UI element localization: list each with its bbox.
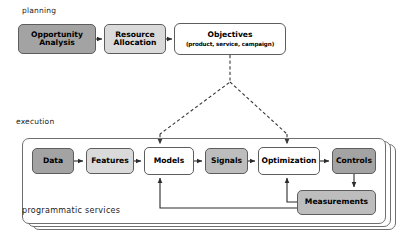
node-label: Signals	[211, 157, 242, 165]
node-label: Measurements	[305, 198, 368, 206]
node-features[interactable]: Features	[86, 148, 134, 174]
node-label: Data	[43, 157, 63, 165]
node-label: Optimization	[261, 157, 316, 165]
node-signals[interactable]: Signals	[205, 148, 248, 174]
node-objectives[interactable]: Objectives (product, service, campaign)	[174, 23, 286, 55]
node-controls[interactable]: Controls	[332, 148, 376, 174]
connector-measurements-to-models	[160, 178, 297, 208]
connector-objectives-to-models-dashed	[160, 55, 230, 144]
node-label: Controls	[336, 157, 372, 165]
node-data[interactable]: Data	[32, 148, 74, 174]
connector-measurements-to-optimization	[287, 178, 297, 202]
diagram-canvas: planning execution programmatic services	[0, 0, 403, 246]
node-measurements[interactable]: Measurements	[297, 190, 376, 215]
node-label: Models	[154, 157, 184, 165]
node-label: Features	[91, 157, 129, 165]
node-models[interactable]: Models	[144, 147, 194, 175]
node-resource-allocation[interactable]: Resource Allocation	[104, 24, 166, 54]
node-opportunity-analysis[interactable]: Opportunity Analysis	[18, 24, 96, 54]
node-label: Objectives	[208, 31, 253, 39]
node-sublabel: (product, service, campaign)	[186, 41, 274, 47]
node-label-line2: Allocation	[114, 39, 157, 47]
connector-objectives-to-optimization-dashed	[230, 82, 287, 144]
node-optimization[interactable]: Optimization	[258, 147, 320, 175]
node-label-line2: Analysis	[39, 39, 75, 47]
